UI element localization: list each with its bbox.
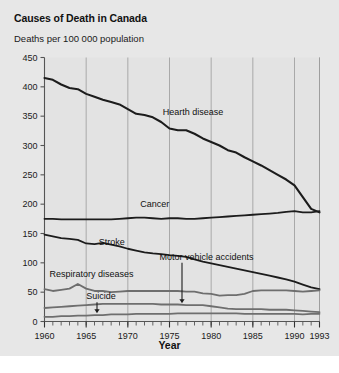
svg-text:300: 300 xyxy=(22,141,37,151)
svg-text:150: 150 xyxy=(22,229,37,239)
series-label-suicide: Suicide xyxy=(86,291,116,301)
y-axis-ticks: 050100150200250300350400450 xyxy=(22,53,44,327)
x-axis-title: Year xyxy=(0,339,339,351)
svg-text:100: 100 xyxy=(22,258,37,268)
svg-text:450: 450 xyxy=(22,53,37,63)
svg-text:200: 200 xyxy=(22,199,37,209)
series-label-motor-vehicle-accidents: Motor vehicle accidents xyxy=(160,252,255,262)
page-footer-space xyxy=(0,356,339,373)
svg-text:400: 400 xyxy=(22,82,37,92)
svg-text:350: 350 xyxy=(22,111,37,121)
plot-area: 050100150200250300350400450 196019651970… xyxy=(0,0,339,356)
series-label-cancer: Cancer xyxy=(140,199,169,209)
x-axis-ticks: 19601965197019751980198519901993 xyxy=(34,322,329,341)
series-label-respiratory-diseases: Respiratory diseases xyxy=(50,269,135,279)
line-chart-svg: 050100150200250300350400450 196019651970… xyxy=(0,0,339,356)
series-label-stroke: Stroke xyxy=(99,237,125,247)
svg-text:250: 250 xyxy=(22,170,37,180)
svg-text:50: 50 xyxy=(27,287,37,297)
series-label-hearth-disease: Hearth disease xyxy=(163,107,224,117)
figure-card: Causes of Death in Canada Deaths per 100… xyxy=(0,0,339,356)
svg-text:0: 0 xyxy=(32,317,37,327)
